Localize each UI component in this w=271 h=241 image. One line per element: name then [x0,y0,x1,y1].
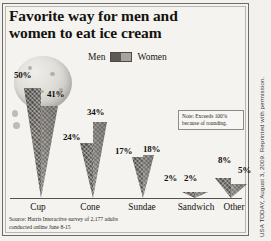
bar-sandwich-men [182,192,195,198]
category-group-other: 8% 5% [209,60,259,198]
source-line-1: Source: Harris Interactive survey of 2,1… [9,216,199,224]
axis-label-cup: Cup [30,202,46,212]
category-group-cone: 24% 34% [64,60,120,198]
chart-plot-area: 50% 41% 24% 34% 17% 18% [6,60,246,200]
source-note: Source: Harris Interactive survey of 2,1… [9,216,199,232]
page-title-line-1: Favorite way for men and [9,7,219,24]
bar-other-women [231,184,247,198]
bar-sandwich-women [195,192,208,198]
bar-cone-women [93,122,107,198]
ice-cream-drip-icon [13,122,20,129]
value-label-other-women: 5% [238,165,251,175]
bar-cone-men [80,143,93,198]
source-line-2: conducted online June 8-15 [9,224,199,232]
page-title: Favorite way for men and women to eat ic… [9,7,219,42]
bar-sundae-women [143,155,154,198]
value-label-other-men: 8% [218,155,231,165]
usa-today-snapshot-infographic: Favorite way for men and women to eat ic… [0,0,271,241]
axis-label-cone: Cone [80,202,100,212]
bar-cup-women [41,106,58,198]
value-label-sandwich-women: 2% [184,173,197,183]
axis-label-other: Other [223,202,244,212]
bar-cup-men [24,88,41,198]
value-label-sundae-women: 18% [143,144,160,154]
page-title-line-2: women to eat ice cream [9,24,219,41]
bar-other-men [215,178,231,198]
value-label-cup-women: 41% [47,89,64,99]
value-label-sundae-men: 17% [115,146,132,156]
cone-bars-other [215,178,247,198]
value-label-cup-men: 50% [14,70,31,80]
axis-baseline [10,198,242,199]
cone-bars-sundae [132,155,154,198]
value-label-cone-men: 24% [63,132,80,142]
reprint-credit: USA TODAY, August 3, 2009. Reprinted wit… [258,67,270,237]
axis-label-sandwich: Sandwich [178,202,215,212]
ice-cream-drip-icon [12,110,18,117]
bar-sundae-men [132,157,143,198]
cone-bars-cone [80,122,107,198]
cone-bars-cup [24,88,58,198]
value-label-sandwich-men: 2% [164,173,177,183]
cone-bars-sandwich [182,192,208,198]
axis-label-sundae: Sundae [128,202,155,212]
scoop-chip-icon [50,72,55,76]
value-label-cone-women: 34% [87,107,104,117]
